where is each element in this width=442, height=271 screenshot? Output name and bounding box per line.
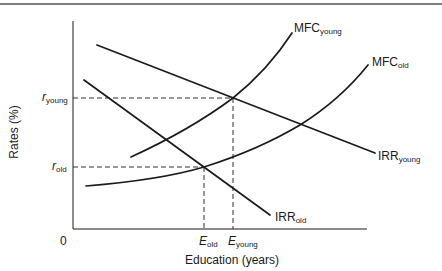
irr-old-label: IRRold bbox=[275, 211, 306, 225]
e-old-tick: Eold bbox=[199, 235, 218, 249]
mfc-young-curve bbox=[131, 33, 292, 157]
mfc-old-label: MFCold bbox=[372, 56, 409, 70]
y-axis-label: Rates (%) bbox=[7, 105, 21, 158]
education-rates-diagram bbox=[0, 0, 442, 271]
irr-old-line bbox=[84, 80, 270, 215]
irr-young-line bbox=[97, 45, 375, 153]
x-axis-label: Education (years) bbox=[185, 253, 279, 267]
e-young-tick: Eyoung bbox=[228, 235, 258, 249]
r-old-tick: rold bbox=[52, 160, 67, 174]
r-young-tick: ryoung bbox=[42, 91, 68, 105]
mfc-old-curve bbox=[86, 65, 368, 186]
irr-young-label: IRRyoung bbox=[378, 150, 420, 164]
mfc-young-label: MFCyoung bbox=[294, 22, 342, 36]
origin-label: 0 bbox=[60, 235, 67, 247]
